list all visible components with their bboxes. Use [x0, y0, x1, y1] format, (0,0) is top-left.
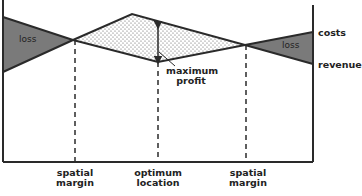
max-profit-label: maximum profit	[166, 66, 216, 86]
x-label-spatial-margin-right: spatial margin	[218, 168, 278, 188]
loss-label-right: loss	[282, 40, 299, 50]
loss-label-left: loss	[19, 34, 36, 44]
revenue-label: revenue	[318, 60, 362, 70]
x-label-spatial-margin-left: spatial margin	[45, 168, 105, 188]
x-label-optimum-location: optimum location	[128, 168, 188, 188]
costs-label: costs	[318, 28, 346, 38]
